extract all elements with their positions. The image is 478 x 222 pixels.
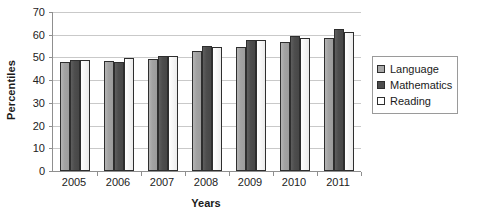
bar-language-2005 [60, 62, 70, 171]
bar-language-2010 [280, 42, 290, 171]
bar-reading-2005 [80, 60, 90, 171]
bar-group [229, 12, 273, 171]
chart-legend: LanguageMathematicsReading [372, 56, 458, 114]
bar-language-2009 [236, 47, 246, 171]
bar-language-2006 [104, 61, 114, 171]
bar-group [141, 12, 185, 171]
bar-reading-2006 [124, 58, 134, 171]
x-axis-tickmark [361, 172, 362, 176]
x-axis-tick-label: 2009 [238, 176, 262, 188]
x-axis-tick-label: 2008 [194, 176, 218, 188]
bar-language-2008 [192, 51, 202, 171]
x-axis-tick-label: 2006 [106, 176, 130, 188]
bar-chart: Percentiles 010203040506070 200520062007… [0, 0, 478, 222]
legend-swatch-icon [377, 81, 385, 89]
bar-group [53, 12, 97, 171]
bar-mathematics-2005 [70, 60, 80, 171]
y-axis-tick-label: 30 [33, 97, 45, 109]
y-axis-tick-label: 20 [33, 120, 45, 132]
bar-mathematics-2007 [158, 56, 168, 171]
bar-reading-2009 [256, 40, 266, 171]
bar-mathematics-2011 [334, 29, 344, 171]
bars-layer [53, 12, 361, 171]
y-axis-tick-label: 60 [33, 29, 45, 41]
legend-item-label: Reading [390, 95, 431, 107]
y-axis-tickmark [49, 80, 53, 81]
y-axis-tick-labels: 010203040506070 [22, 12, 48, 171]
bar-mathematics-2006 [114, 62, 124, 171]
x-axis-title: Years [52, 197, 360, 209]
legend-item-reading[interactable]: Reading [377, 93, 452, 109]
y-axis-tickmark [49, 12, 53, 13]
bar-group [97, 12, 141, 171]
legend-swatch-icon [377, 65, 385, 73]
y-axis-tick-label: 50 [33, 51, 45, 63]
y-axis-tickmark [49, 148, 53, 149]
plot-area [52, 12, 361, 172]
bar-reading-2011 [344, 32, 354, 171]
legend-item-label: Language [390, 63, 439, 75]
bar-group [185, 12, 229, 171]
y-axis-tickmark [49, 171, 53, 172]
bar-language-2011 [324, 38, 334, 171]
x-axis-tick-label: 2005 [62, 176, 86, 188]
y-axis-tickmark [49, 103, 53, 104]
legend-swatch-icon [377, 97, 385, 105]
x-axis-tick-label: 2011 [326, 176, 350, 188]
bar-reading-2008 [212, 47, 222, 171]
y-axis-tickmark [49, 35, 53, 36]
legend-item-label: Mathematics [390, 79, 452, 91]
legend-item-language[interactable]: Language [377, 61, 452, 77]
y-axis-tickmark [49, 57, 53, 58]
legend-item-mathematics[interactable]: Mathematics [377, 77, 452, 93]
bar-mathematics-2010 [290, 36, 300, 171]
y-axis-tick-label: 40 [33, 74, 45, 86]
bar-group [273, 12, 317, 171]
bar-reading-2007 [168, 56, 178, 171]
y-axis-tick-label: 10 [33, 142, 45, 154]
bar-reading-2010 [300, 38, 310, 171]
x-axis-tick-label: 2007 [150, 176, 174, 188]
bar-group [317, 12, 361, 171]
y-axis-title-text: Percentiles [5, 60, 17, 120]
x-axis-tick-labels: 2005200620072008200920102011 [52, 176, 360, 192]
bar-mathematics-2009 [246, 40, 256, 171]
x-axis-tick-label: 2010 [282, 176, 306, 188]
y-axis-tick-label: 70 [33, 6, 45, 18]
bar-language-2007 [148, 59, 158, 171]
y-axis-tick-label: 0 [39, 165, 45, 177]
y-axis-title: Percentiles [0, 0, 22, 180]
bar-mathematics-2008 [202, 46, 212, 171]
y-axis-tickmark [49, 126, 53, 127]
